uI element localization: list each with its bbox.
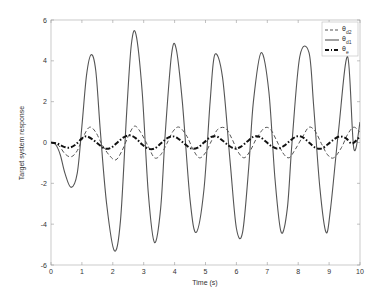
y-tick-label: 0 (43, 139, 47, 146)
x-tick-label: 2 (111, 268, 115, 275)
x-axis-label: Time (s) (192, 279, 217, 287)
x-tick-label: 6 (234, 268, 238, 275)
x-tick-label: 3 (142, 268, 146, 275)
y-axis-label: Target system response (18, 106, 26, 180)
y-tick-label: -2 (41, 180, 47, 187)
x-tick-label: 7 (265, 268, 269, 275)
x-tick-label: 0 (49, 268, 53, 275)
y-tick-label: 2 (43, 98, 47, 105)
x-tick-label: 10 (356, 268, 364, 275)
y-tick-label: -4 (41, 221, 47, 228)
x-tick-label: 5 (204, 268, 208, 275)
x-tick-label: 8 (296, 268, 300, 275)
y-tick-label: -6 (41, 262, 47, 269)
legend: θd2θd1θe (322, 22, 358, 56)
x-tick-label: 4 (173, 268, 177, 275)
line-chart: -6-4-20246 012345678910 Time (s) Target … (0, 0, 379, 295)
x-tick-label: 1 (80, 268, 84, 275)
y-tick-label: 6 (43, 17, 47, 24)
x-tick-label: 9 (327, 268, 331, 275)
y-tick-label: 4 (43, 57, 47, 64)
